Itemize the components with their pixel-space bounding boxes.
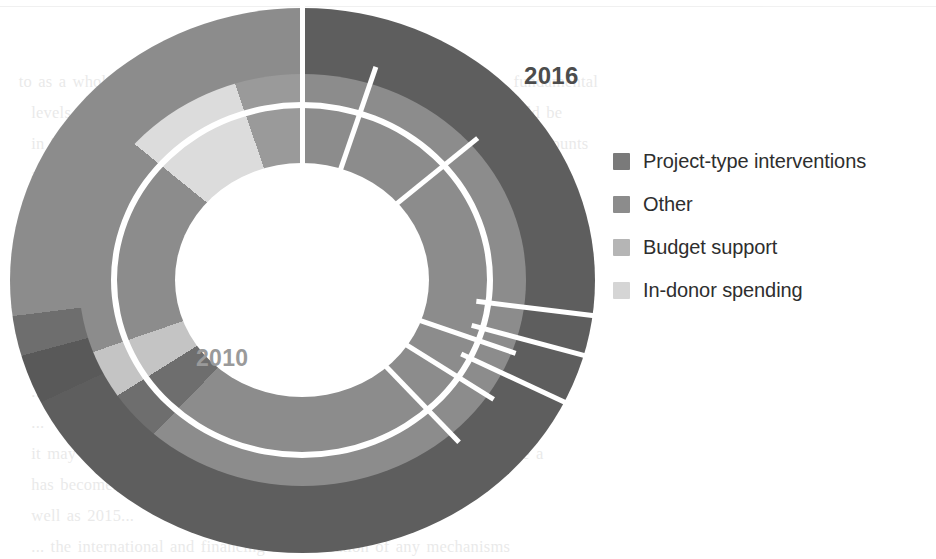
legend-label-other: Other bbox=[643, 193, 693, 216]
legend-label-budget-support: Budget support bbox=[643, 236, 777, 259]
chart-legend: Project-type interventions Other Budget … bbox=[613, 140, 866, 312]
legend-swatch-in-donor-spending bbox=[613, 282, 630, 299]
legend-swatch-project-type-interventions bbox=[613, 153, 630, 170]
legend-item-budget-support[interactable]: Budget support bbox=[613, 226, 866, 269]
legend-swatch-budget-support bbox=[613, 239, 630, 256]
year-label-2016: 2016 bbox=[524, 62, 579, 90]
legend-item-in-donor-spending[interactable]: In-donor spending bbox=[613, 269, 866, 312]
inner-ring-2010[interactable] bbox=[79, 74, 526, 486]
legend-item-project-type-interventions[interactable]: Project-type interventions bbox=[613, 140, 866, 183]
legend-label-in-donor-spending: In-donor spending bbox=[643, 279, 803, 302]
donut-chart-figure: 2016 2010 Project-type interventions Oth… bbox=[0, 0, 936, 559]
legend-swatch-other bbox=[613, 196, 630, 213]
year-label-2010: 2010 bbox=[196, 345, 248, 372]
legend-label-project-type-interventions: Project-type interventions bbox=[643, 150, 866, 173]
legend-item-other[interactable]: Other bbox=[613, 183, 866, 226]
